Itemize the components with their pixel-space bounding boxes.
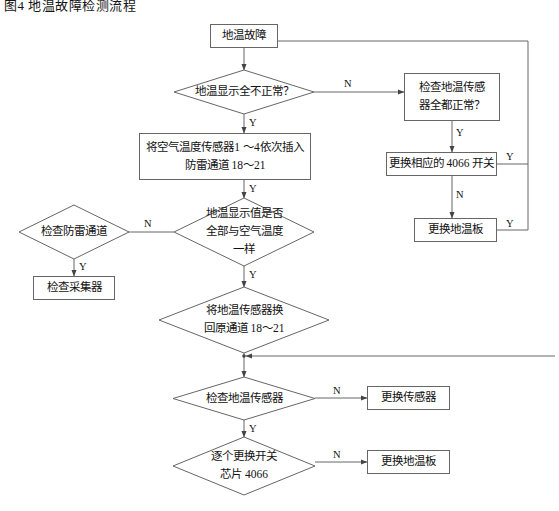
edge-label-n3-yes: Y — [456, 128, 464, 139]
edge-label-n5-yes-rail: Y — [506, 219, 514, 230]
node-label: 更换传感器 — [381, 389, 436, 407]
node-label: 检查采集器 — [47, 279, 102, 297]
node-ground-temp-fault[interactable]: 地温故障 — [210, 24, 278, 48]
node-label: 地温故障 — [222, 27, 266, 45]
node-check-sensors-normal[interactable]: 检查地温传感 器全都正常？ — [404, 73, 500, 121]
edge-label-n2-yes: Y — [249, 118, 257, 129]
node-insert-air-sensors[interactable]: 将空气温度传感器1 ～4依次插入 防雷通道 18～21 — [139, 133, 311, 180]
node-replace-4066-switch[interactable]: 更换相应的 4066 开关 — [386, 152, 497, 176]
edge-label-n2-no: N — [344, 79, 352, 90]
node-restore-sensors-channels[interactable]: 将地温传感器换 回原通道 18～21 — [159, 287, 329, 353]
flowchart-page: 图4 地温故障检测流程 — [0, 0, 559, 511]
node-check-collector[interactable]: 检查采集器 — [33, 276, 115, 300]
edge-label-n7-no: N — [144, 219, 152, 230]
node-label: 检查地温传感器 — [173, 377, 315, 420]
node-label: 地温显示全不正常？ — [174, 70, 314, 114]
node-label: 逐个更换开关 芯片 4066 — [173, 437, 315, 495]
edge-label-n8-yes: Y — [79, 262, 87, 273]
node-label: 地温显示值是否 全部与空气温度 一样 — [174, 198, 314, 266]
edge-label-n11-no: N — [333, 386, 341, 397]
edge-label-n4-yes-rail: Y — [506, 152, 514, 163]
edge-label-n11-yes: Y — [249, 424, 257, 435]
page-title: 图4 地温故障检测流程 — [4, 0, 136, 14]
edge-label-n6-yes: Y — [249, 184, 257, 195]
node-label: 更换相应的 4066 开关 — [389, 155, 495, 173]
node-label: 将地温传感器换 回原通道 18～21 — [159, 287, 329, 353]
node-label: 检查防雷通道 — [19, 205, 129, 259]
node-values-match-air[interactable]: 地温显示值是否 全部与空气温度 一样 — [174, 198, 314, 266]
node-replace-ground-temp-board-upper[interactable]: 更换地温板 — [414, 218, 497, 242]
node-replace-switch-chips[interactable]: 逐个更换开关 芯片 4066 — [173, 437, 315, 495]
edge-label-n13-no: N — [333, 450, 341, 461]
node-label: 检查地温传感 器全都正常？ — [419, 79, 485, 115]
edge-label-n4-no: N — [456, 190, 464, 201]
node-replace-sensor[interactable]: 更换传感器 — [367, 386, 450, 410]
node-replace-ground-temp-board-lower[interactable]: 更换地温板 — [367, 450, 450, 474]
node-check-ground-temp-sensor[interactable]: 检查地温传感器 — [173, 377, 315, 420]
edge-label-n7-yes: Y — [249, 270, 257, 281]
node-all-display-abnormal[interactable]: 地温显示全不正常？ — [174, 70, 314, 114]
node-label: 更换地温板 — [381, 453, 436, 471]
node-label: 将空气温度传感器1 ～4依次插入 防雷通道 18～21 — [146, 139, 303, 175]
node-check-lightning-channel[interactable]: 检查防雷通道 — [19, 205, 129, 259]
node-label: 更换地温板 — [428, 221, 483, 239]
